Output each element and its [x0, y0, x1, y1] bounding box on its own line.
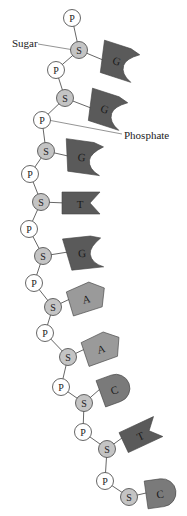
base-letter: G	[78, 247, 87, 260]
sugar-node: S	[99, 441, 116, 458]
thymine-base: T	[119, 417, 163, 453]
svg-text:S: S	[38, 197, 44, 208]
svg-text:S: S	[50, 302, 56, 313]
phosphate-node: P	[21, 221, 38, 238]
phosphate-node: P	[64, 10, 81, 27]
svg-text:P: P	[58, 382, 64, 393]
svg-text:S: S	[40, 251, 46, 262]
sugar-node: S	[35, 248, 52, 265]
sugar-node: S	[60, 349, 77, 366]
svg-text:P: P	[69, 13, 75, 24]
svg-text:P: P	[27, 169, 33, 180]
sugar-node: S	[71, 42, 88, 59]
phosphate-node: P	[53, 379, 70, 396]
svg-text:S: S	[76, 45, 82, 56]
guanine-base: G	[63, 235, 104, 271]
guanine-base: G	[95, 40, 141, 82]
sugar-node: S	[45, 299, 62, 316]
phosphate-node: P	[48, 62, 65, 79]
cytosine-base: C	[96, 370, 134, 407]
base-letter: G	[77, 150, 87, 163]
svg-text:P: P	[80, 427, 86, 438]
svg-text:P: P	[26, 224, 32, 235]
sugar-node: S	[57, 90, 74, 107]
svg-text:S: S	[65, 352, 71, 363]
phosphate-node: P	[75, 424, 92, 441]
sugar-node: S	[33, 194, 50, 211]
svg-text:S: S	[43, 146, 49, 157]
guanine-base: G	[62, 139, 104, 176]
sugar-node: S	[121, 489, 138, 506]
base-letter: T	[77, 198, 84, 210]
adenine-base: A	[65, 279, 108, 316]
guanine-base: G	[83, 88, 129, 130]
thymine-base: T	[62, 192, 100, 214]
sugar-node: S	[76, 395, 93, 412]
sugar-leader-line	[38, 44, 74, 50]
phosphate-node: P	[22, 166, 39, 183]
phosphate-node: P	[37, 325, 54, 342]
adenine-base: A	[80, 329, 124, 367]
svg-text:S: S	[81, 398, 87, 409]
svg-text:S: S	[104, 444, 110, 455]
svg-text:P: P	[42, 328, 48, 339]
phosphate-label: Phosphate	[124, 129, 169, 141]
dna-strand-svg: GGGTGAACTC PSPSPSPSPSPSPSPSPSPS Sugar Ph…	[0, 0, 187, 516]
phosphate-node: P	[97, 473, 114, 490]
svg-text:P: P	[31, 278, 37, 289]
sugar-node: S	[38, 143, 55, 160]
svg-text:S: S	[126, 492, 132, 503]
svg-text:P: P	[53, 65, 59, 76]
phosphate-node: P	[34, 112, 51, 129]
svg-text:S: S	[62, 93, 68, 104]
svg-text:P: P	[39, 115, 45, 126]
svg-text:P: P	[102, 476, 108, 487]
dna-strand-diagram: GGGTGAACTC PSPSPSPSPSPSPSPSPSPS Sugar Ph…	[0, 0, 187, 516]
sugar-label: Sugar	[12, 37, 38, 49]
cytosine-base: C	[144, 477, 178, 509]
phosphate-node: P	[26, 275, 43, 292]
